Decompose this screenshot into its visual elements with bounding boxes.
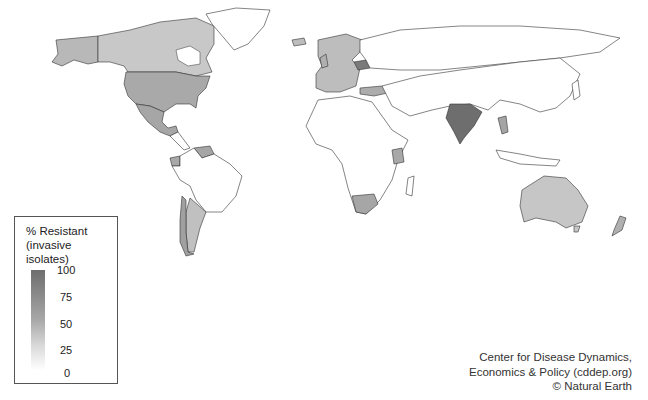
region-india[interactable] <box>446 104 482 144</box>
region-japan[interactable] <box>572 80 580 100</box>
credit-line3: © Natural Earth <box>469 379 632 394</box>
legend-tick-25: 25 <box>60 344 72 356</box>
region-canada[interactable] <box>98 18 214 76</box>
region-madagascar[interactable] <box>406 176 414 196</box>
credit-line1: Center for Disease Dynamics, <box>469 350 632 365</box>
region-iceland[interactable] <box>292 38 306 46</box>
legend-tick-75: 75 <box>60 291 72 303</box>
credit-text: Center for Disease Dynamics, Economics &… <box>469 350 632 394</box>
region-central-america[interactable] <box>170 132 190 150</box>
legend: % Resistant (invasive isolates) 100 75 5… <box>14 216 118 384</box>
region-new-zealand[interactable] <box>612 216 626 236</box>
legend-tick-50: 50 <box>60 318 72 330</box>
legend-tick-100: 100 <box>57 264 75 276</box>
region-australia[interactable] <box>520 176 588 228</box>
legend-title: % Resistant (invasive isolates) <box>26 224 117 266</box>
region-thailand[interactable] <box>498 116 508 134</box>
region-greenland[interactable] <box>206 8 270 50</box>
region-mexico[interactable] <box>136 104 178 136</box>
legend-title-line1: % Resistant <box>26 224 117 238</box>
legend-title-line2: (invasive isolates) <box>26 238 117 266</box>
region-tasmania[interactable] <box>574 226 580 232</box>
legend-tick-0: 0 <box>64 367 70 379</box>
region-indonesia[interactable] <box>496 150 560 166</box>
region-south-africa[interactable] <box>352 194 378 214</box>
credit-line2: Economics & Policy (cddep.org) <box>469 365 632 380</box>
legend-color-scale <box>31 270 45 370</box>
region-ecuador[interactable] <box>170 156 180 166</box>
region-kenya[interactable] <box>392 148 404 164</box>
region-russia[interactable] <box>360 26 620 70</box>
region-alaska[interactable] <box>52 36 98 66</box>
